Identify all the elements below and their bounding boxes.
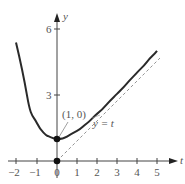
x-tick-label: 0 — [54, 166, 60, 178]
x-tick-label: 4 — [134, 166, 140, 178]
x-tick-label: 3 — [114, 166, 120, 178]
asymptote-label: y = t — [92, 117, 115, 129]
point-label-leader — [59, 122, 68, 137]
x-tick-label: −1 — [29, 166, 41, 178]
y-tick-label: 6 — [46, 23, 52, 35]
y-axis-arrow-icon — [54, 13, 60, 22]
x-tick-label: 5 — [154, 166, 160, 178]
x-axis-arrow-icon — [169, 158, 178, 164]
y-axis-label: y — [62, 10, 68, 22]
function-graph: t y −2 −1 0 1 2 3 4 5 3 6 (1, 0) y = t — [0, 0, 185, 184]
origin-point-marker — [54, 158, 61, 165]
x-tick-label: 1 — [74, 166, 80, 178]
x-axis-label: t — [180, 154, 184, 166]
x-tick-labels: −2 −1 0 1 2 3 4 5 — [8, 166, 160, 178]
point-label: (1, 0) — [62, 108, 86, 121]
function-curve — [16, 42, 157, 139]
y-tick-label: 3 — [46, 89, 52, 101]
x-tick-label: −2 — [8, 166, 20, 178]
x-tick-label: 2 — [94, 166, 100, 178]
